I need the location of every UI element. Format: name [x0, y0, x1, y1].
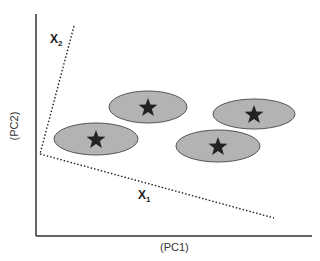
y-axis-label: (PC2) [8, 106, 20, 146]
x-axis-label: (PC1) [160, 241, 189, 253]
cluster-right-bottom [176, 130, 260, 162]
pca-diagram: X2 X1 (PC1) (PC2) [0, 0, 320, 261]
cluster-left [54, 123, 138, 155]
vector-x1-line [40, 154, 274, 218]
vector-x2-label: X2 [50, 32, 62, 48]
diagram-canvas [0, 0, 320, 261]
cluster-top [109, 91, 187, 123]
vector-x1-label: X1 [138, 188, 150, 204]
cluster-right-top [213, 99, 295, 129]
